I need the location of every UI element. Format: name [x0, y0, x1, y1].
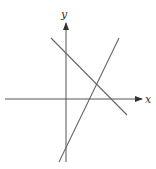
coordinate-diagram: y x — [0, 0, 156, 169]
y-axis-label: y — [60, 8, 68, 21]
x-axis-label: x — [145, 93, 152, 106]
decreasing-line — [51, 38, 127, 115]
increasing-line — [59, 38, 119, 162]
